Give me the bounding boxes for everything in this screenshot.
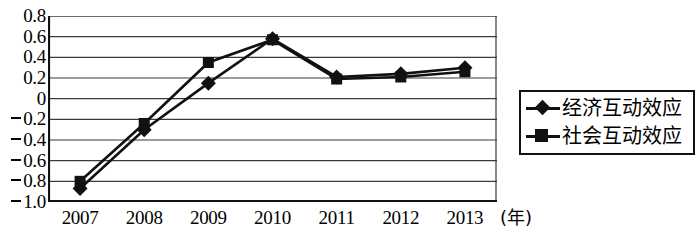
- minus-sign-icon: [11, 117, 21, 119]
- y-axis-tick-label: 1.0: [0, 192, 46, 211]
- y-axis-tick-label: 0.4: [0, 130, 46, 149]
- y-axis-labels: 0.80.60.40.200.20.40.60.81.0: [0, 0, 46, 246]
- y-axis-tick-value: 1.0: [23, 191, 46, 212]
- legend-label: 经济互动效应: [562, 97, 682, 119]
- legend-marker-diamond-icon: [524, 98, 562, 118]
- x-axis-tick-label: 2009: [173, 206, 243, 230]
- plot-area: [48, 16, 497, 202]
- data-point-marker-square[interactable]: [331, 74, 342, 85]
- x-axis-tick-label: 2008: [109, 206, 179, 230]
- y-axis-tick-label: 0.6: [0, 27, 46, 46]
- x-axis-labels: 2007200820092010201120122013: [48, 206, 497, 238]
- series-line: [80, 39, 465, 189]
- y-axis-tick-label: 0.2: [0, 68, 46, 87]
- data-point-marker-square[interactable]: [267, 34, 278, 45]
- data-point-marker-square[interactable]: [139, 118, 150, 129]
- y-axis-tick-value: 0.6: [23, 26, 46, 47]
- chart-legend: 经济互动效应社会互动效应: [519, 90, 695, 155]
- y-axis-tick-label: 0.8: [0, 6, 46, 25]
- data-point-marker-square[interactable]: [203, 57, 214, 68]
- y-axis-tick-label: 0.8: [0, 171, 46, 190]
- x-axis-tick-label: 2007: [45, 206, 115, 230]
- y-axis-tick-value: 0.2: [23, 108, 46, 129]
- y-axis-tick-value: 0.8: [23, 5, 46, 26]
- y-axis-tick-value: 0.4: [23, 46, 46, 67]
- y-axis-tick-value: 0.6: [23, 150, 46, 171]
- y-axis-tick-label: 0.6: [0, 151, 46, 170]
- minus-sign-icon: [11, 179, 21, 181]
- minus-sign-icon: [11, 138, 21, 140]
- data-point-marker-square[interactable]: [459, 66, 470, 77]
- legend-item[interactable]: 社会互动效应: [524, 122, 690, 150]
- y-axis-tick-value: 0.2: [23, 67, 46, 88]
- legend-marker-shape: [535, 100, 551, 116]
- y-axis-tick-label: 0: [0, 89, 46, 108]
- minus-sign-icon: [11, 159, 21, 161]
- x-axis-tick-label: 2013: [430, 206, 500, 230]
- y-axis-tick-value: 0: [37, 88, 46, 109]
- legend-marker-shape: [535, 129, 548, 142]
- minus-sign-icon: [11, 200, 21, 202]
- plot-svg: [48, 16, 497, 202]
- y-axis-tick-value: 0.8: [23, 170, 46, 191]
- x-axis-unit-label: (年): [500, 206, 532, 230]
- x-axis-tick-label: 2010: [238, 206, 308, 230]
- legend-label: 社会互动效应: [562, 125, 682, 147]
- data-point-marker-square[interactable]: [75, 176, 86, 187]
- legend-marker-square-icon: [524, 126, 562, 146]
- legend-item[interactable]: 经济互动效应: [524, 94, 690, 122]
- data-point-marker-square[interactable]: [395, 71, 406, 82]
- y-axis-tick-label: 0.4: [0, 47, 46, 66]
- y-axis-tick-label: 0.2: [0, 109, 46, 128]
- x-axis-tick-label: 2011: [302, 206, 372, 230]
- y-axis-tick-value: 0.4: [23, 129, 46, 150]
- x-axis-tick-label: 2012: [366, 206, 436, 230]
